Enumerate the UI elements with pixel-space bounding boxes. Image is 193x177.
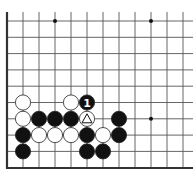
black-stone — [15, 144, 30, 159]
white-stone — [63, 128, 78, 143]
black-stone — [79, 128, 94, 143]
white-stone — [31, 128, 46, 143]
black-stone — [111, 111, 126, 126]
white-stone — [15, 95, 30, 110]
star-point — [149, 19, 153, 23]
go-board-diagram: 1 — [0, 0, 193, 177]
white-stone — [47, 128, 62, 143]
move-number-label: 1 — [83, 97, 91, 110]
white-stone — [63, 95, 78, 110]
black-stone — [95, 144, 110, 159]
black-stone — [15, 128, 30, 143]
white-stone — [15, 111, 30, 126]
black-stone — [63, 111, 78, 126]
black-stone — [31, 111, 46, 126]
black-stone — [79, 144, 94, 159]
black-stone — [47, 111, 62, 126]
star-point — [149, 117, 153, 121]
black-stone — [111, 128, 126, 143]
white-stone — [95, 128, 110, 143]
star-point — [53, 19, 57, 23]
